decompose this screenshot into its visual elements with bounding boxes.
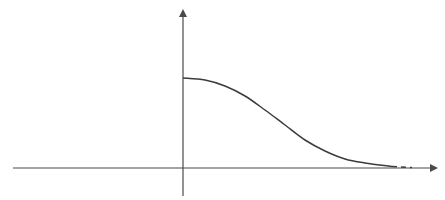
bell-curve	[183, 78, 392, 167]
function-diagram	[0, 0, 445, 200]
bell-curve-dashed-tail	[392, 167, 412, 168]
